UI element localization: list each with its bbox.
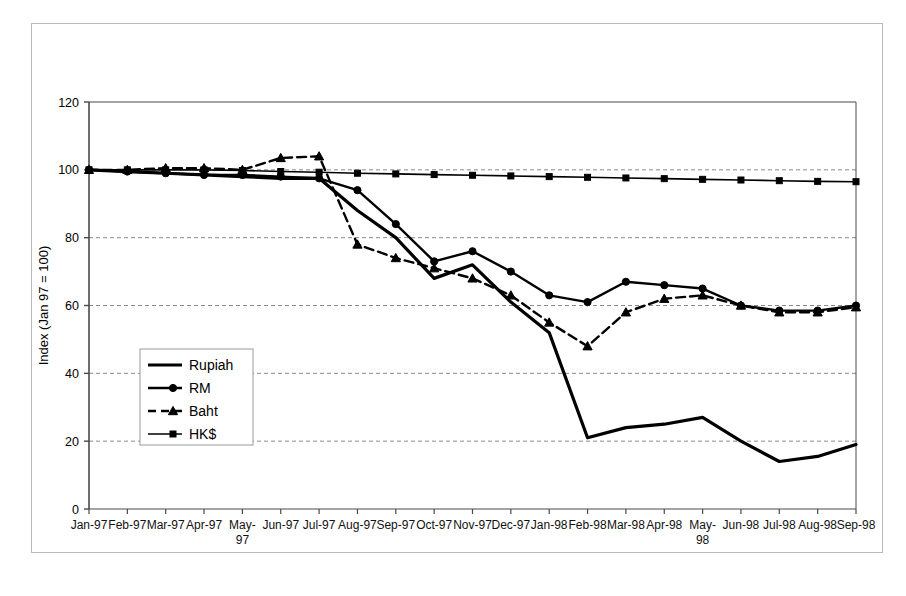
figure-root: 020406080100120Index (Jan 97 = 100)Jan-9… — [0, 0, 906, 596]
data-point-marker — [468, 274, 477, 282]
x-tick-label: Nov-97 — [453, 518, 492, 532]
x-tick-label: Mar-98 — [607, 518, 645, 532]
x-tick-label: Dec-97 — [492, 518, 531, 532]
data-point-marker — [622, 278, 629, 285]
series-line — [89, 170, 856, 311]
x-tick-label: Apr-97 — [186, 518, 222, 532]
x-tick-label: May- — [689, 518, 716, 532]
y-axis-title: Index (Jan 97 = 100) — [36, 246, 51, 366]
data-point-marker — [201, 167, 207, 173]
line-chart: 020406080100120Index (Jan 97 = 100)Jan-9… — [0, 0, 906, 596]
data-point-marker — [169, 384, 176, 391]
legend-label: RM — [189, 380, 211, 396]
data-point-marker — [623, 175, 629, 181]
y-tick-label: 40 — [65, 367, 79, 381]
data-point-marker — [316, 175, 323, 182]
data-point-marker — [661, 282, 668, 289]
x-tick-label: Apr-98 — [646, 518, 682, 532]
x-tick-label: Aug-97 — [338, 518, 377, 532]
x-tick-label: Sep-97 — [376, 518, 415, 532]
data-point-marker — [316, 169, 322, 175]
y-axis: 020406080100120 — [58, 96, 89, 517]
data-point-marker — [86, 167, 92, 173]
x-tick-label: Feb-98 — [569, 518, 607, 532]
data-point-marker — [507, 268, 514, 275]
x-tick-label: Mar-97 — [147, 518, 185, 532]
legend-label: Rupiah — [189, 357, 233, 373]
data-point-marker — [239, 168, 245, 174]
data-point-marker — [170, 431, 176, 437]
data-point-marker — [124, 167, 130, 173]
data-point-marker — [163, 167, 169, 173]
x-tick-label: May- — [229, 518, 256, 532]
data-point-marker — [815, 178, 821, 184]
x-tick-label: Jan-98 — [531, 518, 568, 532]
series-rm — [85, 166, 859, 314]
x-tick-label: Sep-98 — [837, 518, 876, 532]
data-point-marker — [431, 172, 437, 178]
data-point-marker — [546, 292, 553, 299]
data-point-marker — [853, 179, 859, 185]
legend-label: Baht — [189, 403, 218, 419]
y-tick-label: 120 — [58, 96, 79, 110]
data-point-marker — [470, 172, 476, 178]
x-tick-label: 97 — [236, 533, 250, 547]
y-tick-label: 100 — [58, 163, 79, 177]
x-tick-label: Aug-98 — [798, 518, 837, 532]
data-point-marker — [546, 174, 552, 180]
x-tick-label: Jul-98 — [763, 518, 796, 532]
legend-label: HK$ — [189, 426, 216, 442]
x-axis: Jan-97Feb-97Mar-97Apr-97May-97Jun-97Jul-… — [71, 509, 876, 547]
data-point-marker — [353, 240, 362, 248]
x-tick-label: Jun-98 — [723, 518, 760, 532]
data-point-marker — [738, 177, 744, 183]
y-tick-label: 60 — [65, 299, 79, 313]
x-tick-label: Jul-97 — [303, 518, 336, 532]
data-point-marker — [392, 221, 399, 228]
data-point-marker — [584, 299, 591, 306]
data-point-marker — [661, 176, 667, 182]
data-point-marker — [469, 248, 476, 255]
y-tick-label: 80 — [65, 231, 79, 245]
data-point-marker — [506, 291, 515, 299]
x-tick-label: 98 — [696, 533, 710, 547]
data-point-marker — [354, 187, 361, 194]
legend: RupiahRMBahtHK$ — [140, 349, 253, 445]
data-point-marker — [278, 169, 284, 175]
x-tick-label: Jun-97 — [262, 518, 299, 532]
data-point-marker — [508, 173, 514, 179]
data-point-marker — [354, 170, 360, 176]
data-point-marker — [585, 174, 591, 180]
y-tick-label: 20 — [65, 435, 79, 449]
data-point-marker — [776, 178, 782, 184]
data-point-marker — [393, 171, 399, 177]
data-point-marker — [700, 176, 706, 182]
x-tick-label: Oct-97 — [416, 518, 452, 532]
y-tick-label: 0 — [72, 503, 79, 517]
x-tick-label: Feb-97 — [108, 518, 146, 532]
x-tick-label: Jan-97 — [71, 518, 108, 532]
